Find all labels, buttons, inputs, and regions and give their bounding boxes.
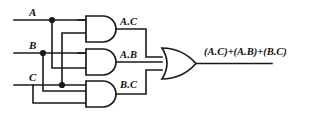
or-gate-body: [162, 48, 196, 79]
input-label-b: B: [29, 40, 37, 51]
circuit-output-label: (A.C)+(A.B)+(B.C): [204, 47, 287, 58]
junction-dot-c: [59, 82, 65, 88]
junction-dot-a: [49, 17, 55, 23]
wire-c-to-and-ac: [62, 33, 86, 85]
and-gate-ab-body: [86, 49, 116, 75]
circuit-svg: [0, 0, 311, 117]
wire-c-to-and-bc: [33, 85, 86, 103]
input-label-c: C: [29, 72, 37, 83]
wire-a-to-and-ab: [52, 20, 86, 68]
and-gate-ac-body: [86, 16, 116, 42]
and-gate-bc-body: [86, 81, 116, 107]
logic-circuit-diagram: A B C A.C A.B B.C (A.C)+(A.B)+(B.C): [0, 0, 311, 117]
and-gate-bc-output-label: B.C: [120, 80, 137, 91]
input-label-a: A: [29, 7, 37, 18]
and-gate-ab-output-label: A.B: [120, 50, 137, 61]
and-gate-ac-output-label: A.C: [120, 17, 137, 28]
junction-dot-b: [40, 50, 46, 56]
